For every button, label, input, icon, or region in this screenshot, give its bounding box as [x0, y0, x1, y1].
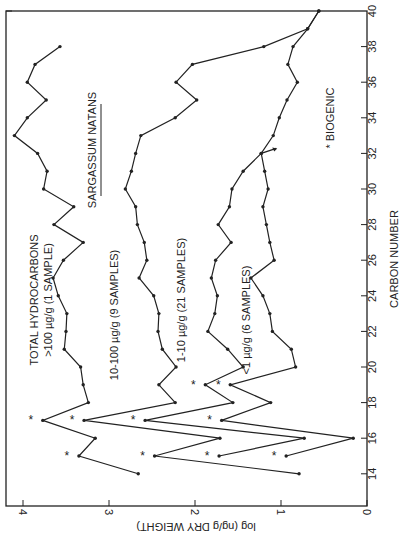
data-point	[195, 98, 198, 101]
y-tick-label: 3	[103, 509, 115, 515]
biogenic-marker: *	[272, 449, 277, 463]
data-point	[291, 45, 294, 48]
x-tick-label: 24	[366, 290, 378, 302]
data-point	[13, 134, 16, 137]
series-line	[84, 11, 319, 474]
data-point	[52, 223, 55, 226]
series-2: **10-100 µg/g (9 SAMPLES)	[70, 9, 321, 475]
x-tick-label: 16	[366, 432, 378, 444]
data-point	[79, 365, 82, 368]
data-point	[134, 205, 137, 208]
data-point	[220, 419, 223, 422]
x-tick-label: 38	[366, 40, 378, 52]
data-point	[26, 81, 29, 84]
data-point	[268, 241, 271, 244]
biogenic-marker: *	[205, 449, 210, 463]
data-point	[33, 63, 36, 66]
series-label: TOTAL HYDROCARBONS	[28, 234, 40, 365]
data-point	[265, 223, 268, 226]
data-point	[136, 223, 139, 226]
data-point	[174, 81, 177, 84]
biogenic-marker: *	[28, 413, 33, 427]
data-point	[217, 454, 220, 457]
series-lines: **TOTAL HYDROCARBONS>100 µg/g (1 SAMPLE)…	[13, 9, 355, 475]
data-point	[57, 294, 60, 297]
x-tick-label: 20	[366, 361, 378, 373]
data-point	[269, 401, 272, 404]
data-point	[137, 276, 140, 279]
data-point	[284, 454, 287, 457]
data-point	[62, 259, 65, 262]
data-point	[82, 383, 85, 386]
data-point	[153, 454, 156, 457]
data-point	[272, 134, 275, 137]
data-point	[174, 116, 177, 119]
data-point	[210, 276, 213, 279]
data-point	[139, 134, 142, 137]
data-point	[124, 187, 127, 190]
data-point	[213, 312, 216, 315]
y-tick-label: 2	[189, 509, 201, 515]
x-tick-label: 36	[366, 76, 378, 88]
data-point	[241, 170, 244, 173]
data-point	[42, 187, 45, 190]
data-point	[41, 419, 44, 422]
data-point	[45, 170, 48, 173]
data-point	[226, 348, 229, 351]
data-point	[206, 330, 209, 333]
data-point	[261, 294, 264, 297]
series-1: **TOTAL HYDROCARBONS>100 µg/g (1 SAMPLE)	[13, 45, 140, 476]
data-point	[63, 348, 66, 351]
biogenic-marker: *	[65, 449, 70, 463]
data-point	[230, 187, 233, 190]
data-point	[296, 81, 299, 84]
data-point	[145, 259, 148, 262]
data-point	[82, 419, 85, 422]
data-point	[262, 45, 265, 48]
y-tick-label: 1	[275, 509, 287, 515]
rotated-line-chart: 012341416182022242628303234363840 **TOTA…	[0, 0, 407, 533]
series-label: 10-100 µg/g (9 SAMPLES)	[108, 250, 120, 380]
x-tick-label: 30	[366, 183, 378, 195]
data-point	[268, 312, 271, 315]
data-point	[228, 205, 231, 208]
data-point	[231, 401, 234, 404]
x-tick-label: 26	[366, 254, 378, 266]
data-point	[204, 383, 207, 386]
x-tick-label: 28	[366, 218, 378, 230]
data-point	[87, 401, 90, 404]
data-point	[45, 98, 48, 101]
data-point	[26, 116, 29, 119]
data-point	[65, 312, 68, 315]
data-point	[82, 241, 85, 244]
data-point	[218, 437, 221, 440]
x-tick-label: 34	[366, 112, 378, 124]
series-label: <1 µg/g (6 SAMPLES)	[240, 266, 252, 375]
chart-title: SARGASSUM NATANS	[86, 92, 98, 208]
data-point	[352, 437, 355, 440]
data-point	[229, 241, 232, 244]
data-point	[152, 294, 155, 297]
data-point	[191, 63, 194, 66]
y-axis-label: log (ng/g DRY WEIGHT)	[136, 521, 255, 533]
x-tick-label: 22	[366, 325, 378, 337]
data-point	[58, 45, 61, 48]
data-point	[157, 312, 160, 315]
data-point	[266, 187, 269, 190]
data-point	[214, 259, 217, 262]
x-tick-label: 32	[366, 147, 378, 159]
data-point	[174, 365, 177, 368]
data-point	[317, 9, 320, 12]
data-point	[64, 330, 67, 333]
data-point	[156, 330, 159, 333]
series-4: ***<1 µg/g (6 SAMPLES)	[207, 147, 355, 463]
data-point	[306, 27, 309, 30]
data-point	[72, 205, 75, 208]
data-point	[174, 401, 177, 404]
data-point	[303, 437, 306, 440]
biogenic-marker: *	[131, 413, 136, 427]
data-point	[285, 98, 288, 101]
data-point	[286, 63, 289, 66]
x-tick-label: 18	[366, 396, 378, 408]
data-point	[278, 116, 281, 119]
